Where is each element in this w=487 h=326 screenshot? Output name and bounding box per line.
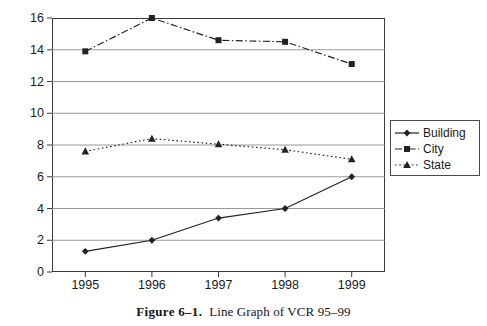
figure-caption-text: Line Graph of VCR 95–99	[209, 304, 350, 319]
data-point-marker	[349, 61, 355, 67]
legend-swatch-triangle-icon	[394, 158, 420, 172]
x-axis-tick-labels: 19951996199719981999	[52, 278, 385, 296]
y-tick-label: 4	[4, 202, 44, 215]
data-point-marker	[149, 15, 155, 21]
data-point-marker	[82, 147, 90, 154]
figure-caption: Figure 6–1.Line Graph of VCR 95–99	[0, 303, 487, 320]
data-point-marker	[215, 215, 222, 222]
legend-label: Building	[423, 126, 466, 140]
y-axis-tick-labels: 0246810121416	[0, 18, 44, 272]
y-tick-label: 14	[4, 44, 44, 57]
data-point-marker	[148, 135, 156, 142]
y-tick-label: 0	[4, 266, 44, 279]
x-tick-label: 1997	[189, 278, 249, 292]
x-tick-label: 1998	[255, 278, 315, 292]
legend-swatch-square-icon	[394, 142, 420, 156]
legend-label: State	[423, 158, 451, 172]
legend-item-state[interactable]: State	[394, 157, 476, 173]
legend-label: City	[423, 142, 444, 156]
plot-svg	[52, 18, 385, 272]
data-point-marker	[82, 248, 89, 255]
data-point-marker	[149, 237, 156, 244]
data-point-marker	[282, 205, 289, 212]
figure-line-graph: 0246810121416 19951996199719981999 Build…	[0, 0, 487, 326]
y-tick-label: 12	[4, 75, 44, 88]
legend-item-city[interactable]: City	[394, 141, 476, 157]
legend-swatch-diamond-icon	[394, 126, 420, 140]
figure-caption-number: Figure 6–1.	[136, 304, 202, 319]
data-point-marker	[216, 37, 222, 43]
y-tick-label: 6	[4, 171, 44, 184]
y-tick-label: 2	[4, 234, 44, 247]
x-tick-label: 1999	[322, 278, 382, 292]
y-tick-label: 10	[4, 107, 44, 120]
y-tick-label: 16	[4, 12, 44, 25]
legend-item-building[interactable]: Building	[394, 125, 476, 141]
x-tick-label: 1995	[55, 278, 115, 292]
y-tick-label: 8	[4, 139, 44, 152]
data-point-marker	[215, 140, 223, 147]
chart-plot-area	[52, 18, 385, 272]
data-point-marker	[82, 48, 88, 54]
data-point-marker	[348, 173, 355, 180]
data-point-marker	[282, 39, 288, 45]
x-tick-label: 1996	[122, 278, 182, 292]
chart-legend: BuildingCityState	[390, 120, 480, 176]
